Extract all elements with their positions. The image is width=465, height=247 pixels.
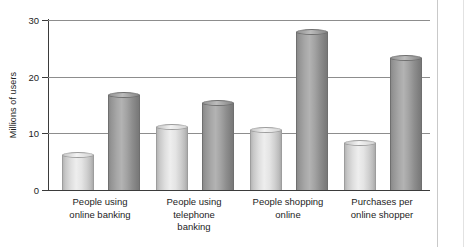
bar-light-1 [62,155,94,190]
gridline-20 [48,77,430,78]
y-axis-title: Millions of users [8,40,18,170]
chart-figure: Millions of users 0102030 People using o… [0,0,465,247]
bar-light-4 [344,143,376,190]
bar-dark-2 [202,103,234,190]
bar-cap [250,127,282,133]
y-tick-label-20: 20 [28,71,39,82]
bar-cap [108,92,140,98]
gridline-30 [48,20,430,21]
bar-cap [344,140,376,146]
y-tick-0 [42,190,48,191]
bar-cap [156,124,188,130]
bar-light-3 [250,130,282,190]
y-tick-10 [42,133,48,134]
bar-light-2 [156,127,188,190]
y-axis-line [48,19,49,191]
y-tick-label-30: 30 [28,15,39,26]
bar-dark-1 [108,95,140,190]
y-tick-label-10: 10 [28,128,39,139]
gridline-10 [48,133,430,134]
bar-cap [202,100,234,106]
y-tick-20 [42,77,48,78]
plot-area: 0102030 [48,20,430,190]
bar-cap [390,55,422,61]
y-tick-label-0: 0 [34,185,39,196]
page-edge-rule-outer [463,0,464,247]
page-edge-rule [437,0,438,247]
category-label-4: Purchases per online shopper [327,196,437,221]
bar-dark-4 [390,58,422,190]
bar-cap [62,152,94,158]
bar-dark-3 [296,32,328,190]
bar-cap [296,29,328,35]
y-tick-30 [42,20,48,21]
